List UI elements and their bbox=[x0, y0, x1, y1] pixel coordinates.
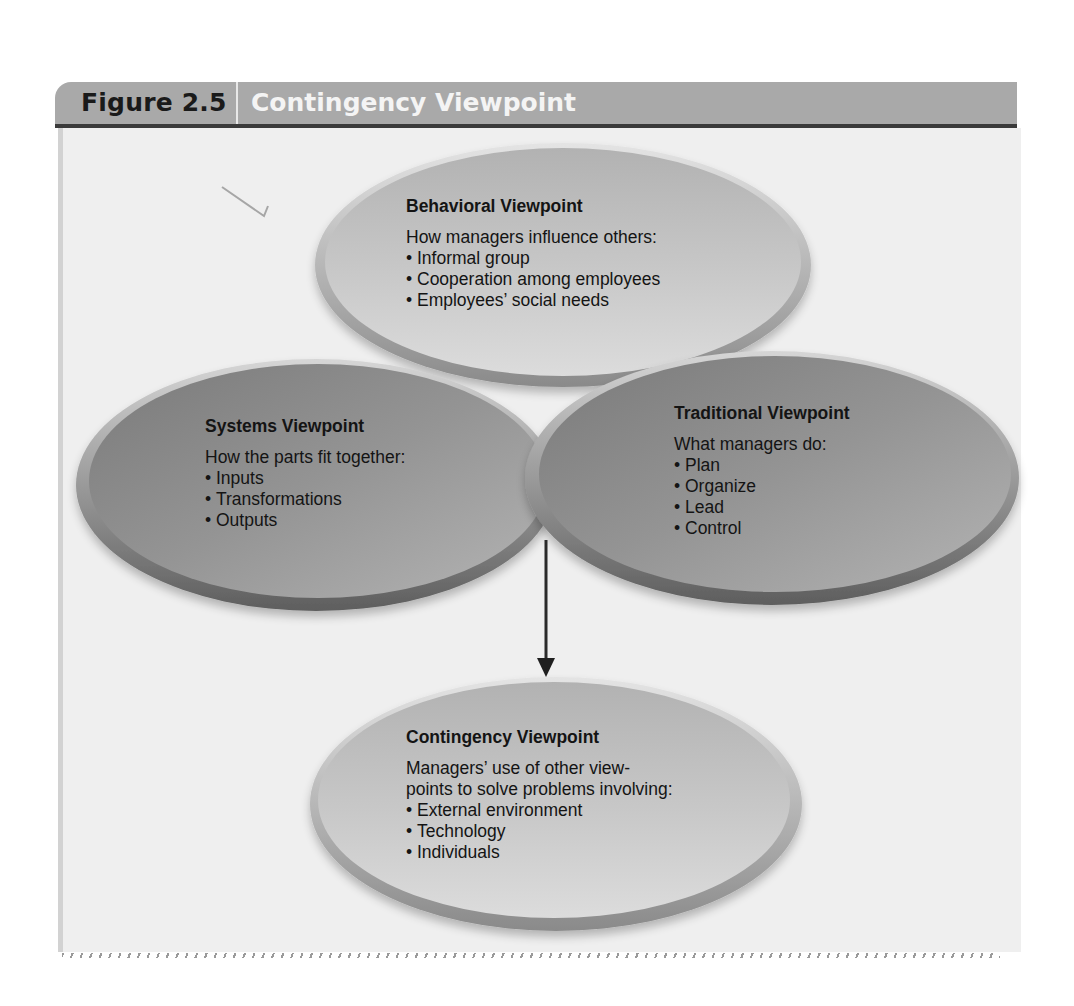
node-description-line1: Managers’ use of other view- bbox=[406, 758, 673, 779]
node-item: Lead bbox=[674, 497, 850, 518]
node-description-line2: points to solve problems involving: bbox=[406, 779, 673, 800]
behavioral-viewpoint-node: Behavioral Viewpoint How managers influe… bbox=[406, 196, 660, 311]
traditional-viewpoint-node: Traditional Viewpoint What managers do: … bbox=[674, 403, 850, 539]
node-item: External environment bbox=[406, 800, 673, 821]
node-item: Control bbox=[674, 518, 850, 539]
node-item: Informal group bbox=[406, 248, 660, 269]
node-item: Technology bbox=[406, 821, 673, 842]
node-item: Individuals bbox=[406, 842, 673, 863]
node-title: Behavioral Viewpoint bbox=[406, 196, 660, 217]
node-item: Employees’ social needs bbox=[406, 290, 660, 311]
node-item: Outputs bbox=[205, 510, 405, 531]
node-item: Cooperation among employees bbox=[406, 269, 660, 290]
node-title: Traditional Viewpoint bbox=[674, 403, 850, 424]
contingency-viewpoint-node: Contingency Viewpoint Managers’ use of o… bbox=[406, 727, 673, 863]
node-description: How managers influence others: bbox=[406, 227, 660, 248]
node-item: Transformations bbox=[205, 489, 405, 510]
node-description: How the parts fit together: bbox=[205, 447, 405, 468]
node-title: Systems Viewpoint bbox=[205, 416, 405, 437]
node-title: Contingency Viewpoint bbox=[406, 727, 673, 748]
node-description: What managers do: bbox=[674, 434, 850, 455]
arrowhead-icon bbox=[537, 658, 555, 677]
pen-mark-decoration bbox=[222, 187, 268, 216]
node-item: Organize bbox=[674, 476, 850, 497]
arrow-to-contingency bbox=[537, 540, 555, 677]
node-item: Plan bbox=[674, 455, 850, 476]
node-item: Inputs bbox=[205, 468, 405, 489]
systems-viewpoint-node: Systems Viewpoint How the parts fit toge… bbox=[205, 416, 405, 531]
